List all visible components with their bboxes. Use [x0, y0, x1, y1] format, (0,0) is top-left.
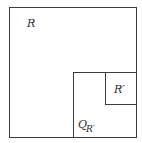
- label-Q-subscript: R′: [85, 124, 95, 134]
- label-R: R: [26, 17, 35, 30]
- label-R-prime: R′: [113, 83, 125, 96]
- nested-rectangles-diagram: R R′ Q R′: [0, 0, 142, 143]
